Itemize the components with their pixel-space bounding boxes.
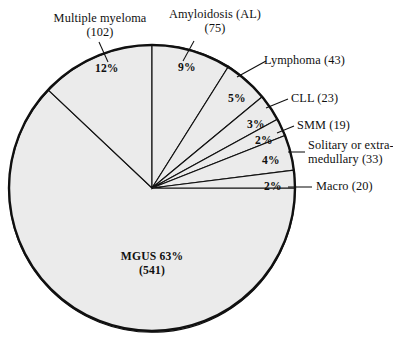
percent-lymphoma: 5% <box>228 92 246 105</box>
percent-macro: 2% <box>264 180 282 193</box>
percent-solitary-extramedullary: 4% <box>262 154 280 167</box>
label-solitary-extramedullary: Solitary or extra-medullary (33) <box>308 139 393 167</box>
label-amyloidosis-line1: Amyloidosis (AL) <box>169 7 261 21</box>
leader-cll <box>266 99 288 108</box>
label-amyloidosis: Amyloidosis (AL)(75) <box>155 8 275 36</box>
label-smm: SMM (19) <box>297 119 350 133</box>
percent-smm: 2% <box>255 134 273 147</box>
pie-chart-figure: Multiple myeloma(102) Amyloidosis (AL)(7… <box>0 0 393 349</box>
label-lymphoma: Lymphoma (43) <box>264 54 345 68</box>
label-multiple-myeloma-line1: Multiple myeloma <box>54 11 147 25</box>
percent-amyloidosis: 9% <box>178 61 196 74</box>
label-mgus-line1: MGUS 63% <box>121 250 183 263</box>
label-solitary-line2: medullary (33) <box>308 152 383 166</box>
label-solitary-line1: Solitary or extra- <box>308 138 393 152</box>
label-macro: Macro (20) <box>316 180 373 194</box>
label-mgus: MGUS 63%(541) <box>92 250 212 278</box>
leader-lymphoma <box>237 61 266 77</box>
label-cll: CLL (23) <box>291 92 338 106</box>
label-mgus-line2: (541) <box>139 264 165 277</box>
label-amyloidosis-line2: (75) <box>205 21 226 35</box>
percent-cll: 3% <box>247 118 265 131</box>
label-multiple-myeloma-line2: (102) <box>86 25 113 39</box>
percent-multiple-myeloma: 12% <box>95 62 119 75</box>
label-multiple-myeloma: Multiple myeloma(102) <box>41 12 159 40</box>
